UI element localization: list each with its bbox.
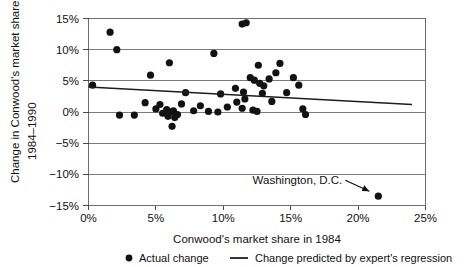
- x-tick-label: 25%: [414, 212, 437, 224]
- y-axis-title-line1: Change in Conwood's market share: [9, 1, 21, 183]
- data-points-layer: [89, 19, 382, 199]
- data-point: [243, 19, 250, 26]
- legend-label-regression: Change predicted by expert's regression: [255, 252, 452, 264]
- data-point: [232, 85, 239, 92]
- data-point: [224, 103, 231, 110]
- data-point: [159, 110, 166, 117]
- data-point: [168, 123, 175, 130]
- data-point: [131, 112, 138, 119]
- scatter-plot: Change in Conwood's market share 1984–19…: [0, 0, 464, 267]
- data-point: [255, 62, 262, 69]
- data-point: [190, 107, 197, 114]
- data-point: [116, 112, 123, 119]
- data-point: [214, 108, 221, 115]
- legend: Actual change Change predicted by expert…: [126, 252, 453, 264]
- data-point: [142, 99, 149, 106]
- data-point: [302, 111, 309, 118]
- y-tick-label: −5%: [56, 137, 79, 149]
- annotation-label: Washington, D.C.: [253, 174, 343, 186]
- x-tick-label: 15%: [279, 212, 302, 224]
- y-tick-label: 10%: [56, 44, 79, 56]
- y-tick-label: −10%: [49, 168, 79, 180]
- data-point: [205, 108, 212, 115]
- data-point: [166, 59, 173, 66]
- legend-marker-actual-change: [126, 255, 133, 262]
- legend-label-actual-change: Actual change: [139, 252, 209, 264]
- data-point: [113, 46, 120, 53]
- x-tick-label: 20%: [347, 212, 370, 224]
- data-point: [210, 50, 217, 57]
- data-point: [276, 60, 283, 67]
- data-point: [178, 100, 185, 107]
- x-tick-label: 10%: [212, 212, 235, 224]
- data-point: [171, 114, 178, 121]
- data-point: [290, 74, 297, 81]
- x-tick-label: 5%: [148, 212, 165, 224]
- data-point: [268, 98, 275, 105]
- data-point: [266, 75, 273, 82]
- data-point: [283, 89, 290, 96]
- washington-dc-annotation: Washington, D.C.: [253, 174, 370, 191]
- y-axis-ticks: [83, 19, 89, 206]
- x-tick-label: 0%: [80, 212, 97, 224]
- data-point: [272, 69, 279, 76]
- x-axis-ticks: [89, 206, 426, 211]
- data-point: [239, 105, 246, 112]
- data-point: [375, 193, 382, 200]
- data-point: [233, 98, 240, 105]
- data-point: [197, 102, 204, 109]
- chart-figure: Change in Conwood's market share 1984–19…: [0, 0, 464, 267]
- data-point: [106, 29, 113, 36]
- x-axis-title: Conwood's market share in 1984: [173, 233, 341, 245]
- x-axis-tick-labels: 0% 5% 10% 15% 20% 25%: [80, 212, 437, 224]
- data-point: [260, 82, 267, 89]
- data-point: [295, 82, 302, 89]
- y-tick-label: 0%: [62, 106, 79, 118]
- y-tick-label: 15%: [56, 13, 79, 25]
- y-tick-label: −15%: [49, 200, 79, 212]
- data-point: [152, 105, 159, 112]
- y-tick-label: 5%: [62, 75, 79, 87]
- data-point: [253, 108, 260, 115]
- y-axis-title-line2: 1984–1990: [26, 102, 38, 160]
- regression-line: [89, 87, 413, 104]
- y-axis-tick-labels: 15% 10% 5% 0% −5% −10% −15%: [49, 13, 79, 212]
- data-point: [147, 72, 154, 79]
